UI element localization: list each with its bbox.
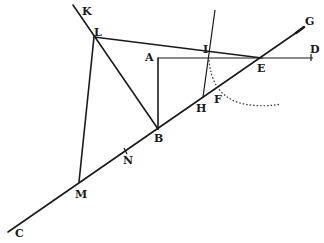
label-b: B bbox=[154, 132, 163, 145]
label-h: H bbox=[196, 102, 206, 115]
label-e: E bbox=[257, 62, 265, 75]
label-m: M bbox=[75, 188, 87, 201]
label-f: F bbox=[214, 93, 222, 106]
geometric-diagram: K L A I E D G H F B N M C bbox=[0, 0, 324, 243]
label-g: G bbox=[305, 15, 314, 28]
label-c: C bbox=[15, 227, 24, 240]
label-n: N bbox=[123, 154, 133, 167]
label-i: I bbox=[203, 43, 208, 56]
label-l: L bbox=[94, 26, 102, 39]
line-l-m bbox=[79, 37, 94, 182]
line-c-g bbox=[8, 28, 303, 232]
label-k: K bbox=[82, 5, 92, 18]
label-a: A bbox=[144, 51, 154, 64]
arrow-g bbox=[296, 27, 304, 33]
label-d: D bbox=[310, 43, 320, 56]
line-l-e bbox=[94, 37, 262, 58]
